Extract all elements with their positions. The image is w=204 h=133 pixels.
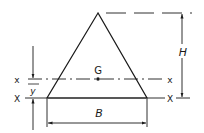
centroid-axis-label-right: x	[167, 75, 173, 85]
triangle-centroid-diagram: H x x G X X y B	[0, 0, 204, 133]
centroid-label: G	[94, 65, 102, 76]
height-label: H	[179, 46, 187, 59]
triangle-shape	[47, 13, 147, 98]
centroid-point	[96, 77, 100, 81]
base-axis-label-left: X	[14, 94, 20, 104]
base-axis-label-right: X	[167, 94, 173, 104]
base-label: B	[95, 107, 103, 120]
ybar-label: y	[29, 86, 36, 96]
centroid-axis-label-left: x	[14, 75, 20, 85]
